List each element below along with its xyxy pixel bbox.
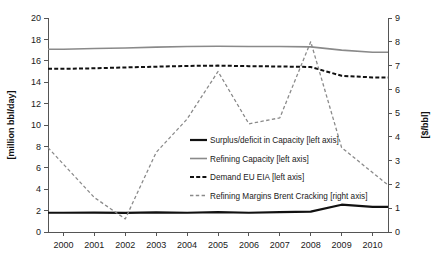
x-tick-label: 2007	[270, 240, 290, 250]
legend-label-2: Refining Capacity [left axis]	[210, 155, 309, 164]
right-tick-label: 1	[395, 203, 400, 213]
y2-axis-title: [$/bbl]	[420, 112, 430, 139]
chart-container: 0246810121416182001234567892000200120022…	[0, 0, 441, 266]
legend-label-1: Surplus/deficit in Capacity [left axis]	[210, 136, 339, 145]
left-tick-label: 10	[31, 120, 41, 130]
left-tick-label: 0	[36, 227, 41, 237]
x-tick-label: 2000	[53, 240, 73, 250]
x-tick-label: 2003	[146, 240, 166, 250]
x-tick-label: 2008	[301, 240, 321, 250]
right-tick-label: 5	[395, 108, 400, 118]
right-tick-label: 9	[395, 13, 400, 23]
left-tick-label: 20	[31, 13, 41, 23]
x-tick-label: 2005	[208, 240, 228, 250]
x-tick-label: 2006	[239, 240, 259, 250]
left-tick-label: 8	[36, 142, 41, 152]
x-tick-label: 2009	[332, 240, 352, 250]
right-tick-label: 2	[395, 180, 400, 190]
left-tick-label: 16	[31, 56, 41, 66]
legend-label-3: Demand EU EIA [left axis]	[210, 173, 304, 182]
y-axis-title: [million bbl/day]	[6, 90, 16, 159]
legend-label-4: Refining Margins Brent Cracking [right a…	[210, 192, 367, 201]
right-tick-label: 7	[395, 61, 400, 71]
left-tick-label: 14	[31, 77, 41, 87]
right-tick-label: 6	[395, 85, 400, 95]
left-tick-label: 4	[36, 184, 41, 194]
right-tick-label: 0	[395, 227, 400, 237]
right-tick-label: 3	[395, 156, 400, 166]
right-tick-label: 4	[395, 132, 400, 142]
x-tick-label: 2004	[177, 240, 197, 250]
x-tick-label: 2001	[84, 240, 104, 250]
left-tick-label: 2	[36, 206, 41, 216]
x-tick-label: 2010	[363, 240, 383, 250]
line-chart: 0246810121416182001234567892000200120022…	[0, 0, 441, 266]
x-tick-label: 2002	[115, 240, 135, 250]
left-tick-label: 18	[31, 35, 41, 45]
left-tick-label: 12	[31, 99, 41, 109]
right-tick-label: 8	[395, 37, 400, 47]
left-tick-label: 6	[36, 163, 41, 173]
